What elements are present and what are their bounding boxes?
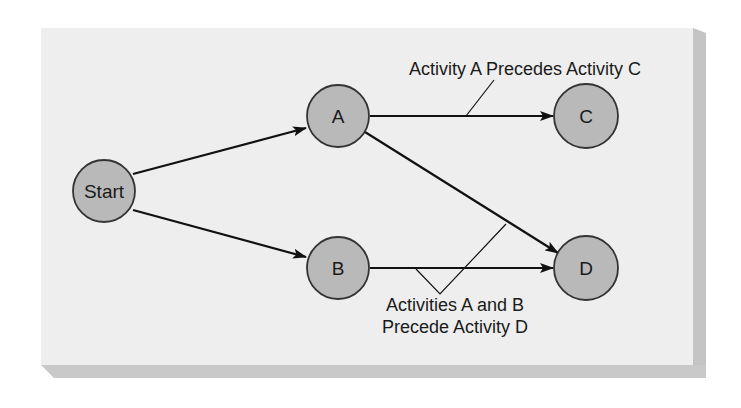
node-b-label: B (332, 258, 345, 279)
node-a: A (307, 85, 369, 147)
node-d: D (554, 236, 618, 300)
callout-leader-ab-d (416, 224, 506, 294)
edge-a-d (365, 132, 558, 253)
node-start-label: Start (84, 181, 125, 202)
edge-start-a (133, 128, 306, 174)
node-c-label: C (579, 106, 593, 127)
callout-leader-a-c (466, 80, 494, 116)
network-diagram: Start A B C D Activity A Precedes Activi… (0, 0, 741, 408)
caption-a-precedes-c: Activity A Precedes Activity C (409, 59, 641, 79)
node-c: C (554, 84, 618, 148)
node-b: B (307, 237, 369, 299)
node-d-label: D (579, 258, 593, 279)
caption-ab-precede-d-line2: Precede Activity D (382, 317, 528, 337)
caption-ab-precede-d-line1: Activities A and B (386, 295, 524, 315)
node-start: Start (73, 160, 135, 222)
edge-start-b (133, 210, 306, 257)
node-a-label: A (332, 106, 345, 127)
